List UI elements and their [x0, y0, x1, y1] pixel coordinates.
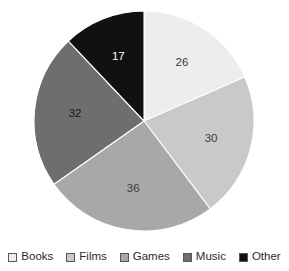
legend-item[interactable]: Books — [8, 251, 53, 263]
pie-slices-group — [34, 11, 254, 231]
legend-swatch-icon — [239, 253, 248, 262]
pie-slice-value-label: 32 — [69, 107, 82, 119]
legend-item[interactable]: Music — [183, 251, 226, 263]
legend-swatch-icon — [120, 253, 129, 262]
pie-slice-value-label: 36 — [127, 182, 140, 194]
legend-item-label: Books — [21, 251, 53, 263]
legend-item[interactable]: Other — [239, 251, 281, 263]
pie-slice-value-label: 30 — [205, 132, 218, 144]
legend-item-label: Other — [252, 251, 281, 263]
legend-swatch-icon — [8, 253, 17, 262]
legend-item[interactable]: Films — [66, 251, 106, 263]
legend-swatch-icon — [66, 253, 75, 262]
legend-item-label: Films — [79, 251, 106, 263]
chart-legend: BooksFilmsGamesMusicOther — [0, 247, 289, 267]
pie-plot-area: 2630363217 — [0, 0, 289, 240]
legend-item-label: Games — [133, 251, 170, 263]
pie-slice-value-label: 26 — [176, 56, 189, 68]
legend-item-label: Music — [196, 251, 226, 263]
pie-chart-figure: 2630363217 BooksFilmsGamesMusicOther — [0, 0, 289, 271]
legend-swatch-icon — [183, 253, 192, 262]
pie-svg: 2630363217 — [0, 0, 289, 240]
legend-item[interactable]: Games — [120, 251, 170, 263]
pie-slice-value-label: 17 — [112, 50, 125, 62]
